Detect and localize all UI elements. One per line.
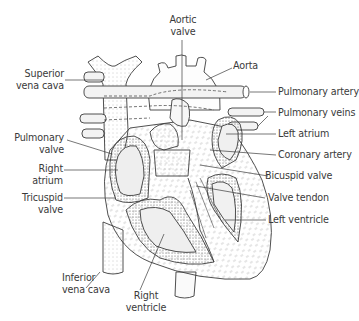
aortic-valve-structure	[154, 150, 190, 176]
pulmonary-vein-right-1	[228, 108, 264, 116]
label-left-atrium: Left atrium	[278, 128, 329, 140]
label-inferior-vena-cava: Inferior vena cava	[62, 272, 110, 295]
label-right-atrium: Right atrium	[20, 163, 63, 186]
label-valve-tendon: Valve tendon	[268, 192, 329, 204]
label-coronary-artery: Coronary artery	[278, 149, 352, 161]
label-pulmonary-artery: Pulmonary artery	[278, 86, 359, 98]
label-aorta: Aorta	[233, 60, 258, 72]
label-right-ventricle: Right ventricle	[124, 290, 168, 313]
label-pulmonary-valve: Pulmonary valve	[6, 132, 64, 155]
label-pulmonary-veins: Pulmonary veins	[278, 107, 355, 119]
label-superior-vena-cava: Superior vena cava	[10, 68, 64, 91]
pulmonary-vein-left-2	[82, 129, 104, 138]
label-bicuspid-valve: Bicuspid valve	[265, 170, 332, 182]
pulmonary-vein-left-1	[80, 114, 106, 123]
label-left-ventricle: Left ventricle	[268, 214, 329, 226]
descending-aorta	[175, 272, 196, 298]
label-aortic-valve: Aortic valve	[162, 14, 204, 37]
label-tricuspid-valve: Tricuspid valve	[14, 192, 63, 215]
